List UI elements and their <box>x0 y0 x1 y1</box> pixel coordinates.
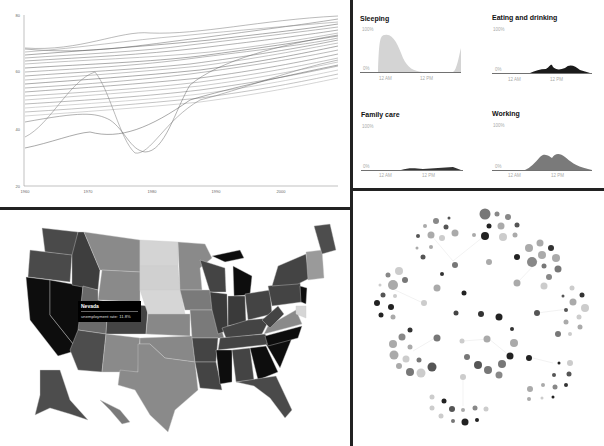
state-new-england <box>306 250 324 280</box>
svg-text:100%: 100% <box>362 124 374 129</box>
state-wyoming <box>98 270 140 302</box>
network-graph-panel <box>353 191 604 446</box>
line-chart-panel: 80 60 40 20 1960 1970 1980 1990 2000 <box>0 0 350 207</box>
state-michigan <box>233 266 252 296</box>
svg-text:0%: 0% <box>495 164 502 169</box>
svg-text:12 PM: 12 PM <box>420 76 433 81</box>
force-graph <box>353 191 604 446</box>
line-chart: 80 60 40 20 1960 1970 1980 1990 2000 <box>0 0 350 207</box>
state-washington <box>42 228 78 256</box>
svg-text:1990: 1990 <box>212 189 222 194</box>
line-series <box>25 16 338 153</box>
multiple-family-care: Family care 100% 0% 12 AM 12 PM <box>361 111 463 178</box>
tooltip-state-name: Nevada <box>81 303 138 312</box>
small-multiples-panel: Sleeping 100% 0% 12 AM 12 PM Eating and … <box>353 0 604 188</box>
state-new-jersey <box>300 286 307 304</box>
svg-text:12 PM: 12 PM <box>551 173 564 178</box>
svg-text:Eating and drinking: Eating and drinking <box>492 14 557 22</box>
state-oregon <box>28 250 72 282</box>
svg-text:1970: 1970 <box>84 189 94 194</box>
y-axis: 80 60 40 20 <box>16 13 24 189</box>
svg-text:1960: 1960 <box>21 189 31 194</box>
state-wisconsin <box>200 260 226 292</box>
svg-text:1980: 1980 <box>148 189 158 194</box>
svg-text:12 AM: 12 AM <box>379 76 392 81</box>
svg-text:12 AM: 12 AM <box>508 173 521 178</box>
svg-text:0%: 0% <box>495 67 502 72</box>
svg-text:60: 60 <box>16 69 21 74</box>
svg-text:100%: 100% <box>362 27 374 32</box>
svg-text:40: 40 <box>16 127 21 132</box>
tooltip-value: unemployment rate: 11.8% <box>81 314 138 319</box>
state-nebraska <box>140 290 185 314</box>
state-new-mexico <box>102 334 140 372</box>
svg-text:100%: 100% <box>493 123 505 128</box>
state-michigan-upper <box>212 250 244 262</box>
state-south-dakota <box>140 266 180 290</box>
svg-text:2000: 2000 <box>277 189 287 194</box>
state-new-york <box>272 254 310 286</box>
state-arkansas <box>192 338 218 362</box>
multiple-sleeping: Sleeping 100% 0% 12 AM 12 PM <box>360 15 461 81</box>
svg-text:80: 80 <box>16 13 21 18</box>
graph-nodes <box>374 209 589 426</box>
svg-text:12 AM: 12 AM <box>379 173 392 178</box>
multiple-eating-and-drinking: Eating and drinking 100% 0% 12 AM 12 PM <box>492 14 592 82</box>
svg-text:12 PM: 12 PM <box>422 173 435 178</box>
svg-text:0%: 0% <box>363 164 370 169</box>
small-multiples-chart: Sleeping 100% 0% 12 AM 12 PM Eating and … <box>353 0 604 188</box>
svg-text:100%: 100% <box>493 27 505 32</box>
state-arizona <box>70 330 106 372</box>
map-tooltip: Nevada unemployment rate: 11.8% <box>78 301 141 322</box>
state-north-dakota <box>140 240 178 266</box>
x-axis: 1960 1970 1980 1990 2000 <box>21 186 338 194</box>
svg-text:12 PM: 12 PM <box>550 77 563 82</box>
svg-text:Family care: Family care <box>361 111 400 119</box>
state-iowa <box>180 290 214 310</box>
svg-text:0%: 0% <box>363 66 370 71</box>
state-alaska <box>35 370 88 420</box>
state-kansas <box>146 314 190 336</box>
choropleth-map-panel: Nevada unemployment rate: 11.8% <box>0 210 350 446</box>
state-florida <box>236 376 292 418</box>
svg-text:Working: Working <box>492 110 520 118</box>
state-hawaii <box>100 400 130 424</box>
state-alabama <box>232 348 254 382</box>
us-map <box>0 210 350 446</box>
svg-text:Sleeping: Sleeping <box>360 15 389 23</box>
svg-text:12 AM: 12 AM <box>508 77 521 82</box>
state-maine <box>314 224 336 254</box>
multiple-working: Working 100% 0% 12 AM 12 PM <box>492 110 592 178</box>
